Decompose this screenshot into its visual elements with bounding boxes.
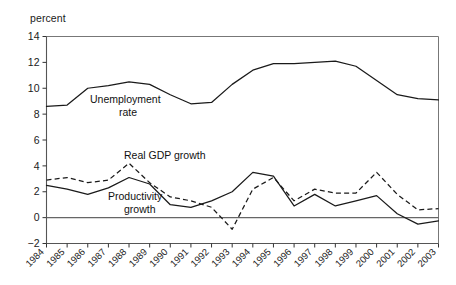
x-tick-label: 1997	[291, 246, 314, 269]
x-tick-label: 2002	[395, 246, 418, 269]
x-tick-label: 1999	[333, 246, 356, 269]
x-tick-label: 1989	[126, 246, 149, 269]
series-line-real-gdp-growth	[47, 163, 439, 229]
x-tick-label: 1984	[23, 246, 46, 269]
x-tick-label: 1990	[147, 246, 170, 269]
chart-container: percent −2024681012141984198519861987198…	[0, 0, 456, 285]
y-tick-label: 10	[28, 82, 40, 94]
y-tick-label: 2	[34, 185, 40, 197]
line-chart: −202468101214198419851986198719881989199…	[0, 0, 456, 285]
series-annotation-label: Real GDP growth	[124, 149, 206, 161]
x-tick-label: 2003	[415, 246, 438, 269]
x-tick-label: 1991	[168, 246, 191, 269]
x-tick-label: 1986	[64, 246, 87, 269]
y-tick-label: 0	[34, 211, 40, 223]
x-tick-label: 1994	[230, 246, 253, 269]
x-tick-label: 1992	[188, 246, 211, 269]
series-annotation-label: growth	[124, 203, 156, 215]
y-tick-label: 12	[28, 56, 40, 68]
x-tick-label: 1987	[85, 246, 108, 269]
series-annotation-label: Unemployment	[90, 93, 161, 105]
y-tick-label: 4	[34, 160, 40, 172]
series-annotation-label: rate	[119, 106, 137, 118]
series-annotation-label: Productivity	[108, 190, 163, 202]
y-tick-label: 8	[34, 108, 40, 120]
y-tick-label: 14	[28, 30, 40, 42]
y-tick-label: 6	[34, 134, 40, 146]
x-tick-label: 2000	[353, 246, 376, 269]
x-tick-label: 2001	[374, 246, 397, 269]
x-tick-label: 1998	[312, 246, 335, 269]
x-tick-label: 1985	[44, 246, 67, 269]
x-tick-label: 1995	[250, 246, 273, 269]
x-tick-label: 1993	[209, 246, 232, 269]
x-tick-label: 1996	[271, 246, 294, 269]
x-tick-label: 1988	[106, 246, 129, 269]
